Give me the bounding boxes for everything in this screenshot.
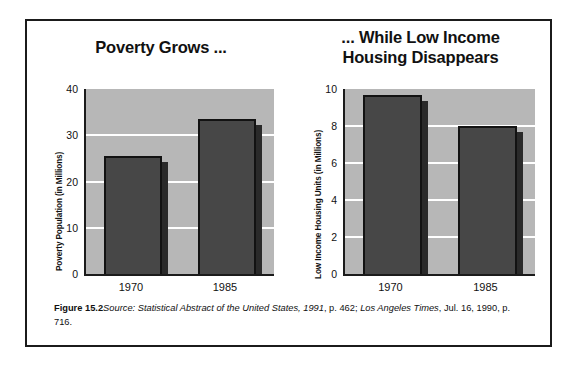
chart-housing-title-line-2: Housing Disappears (293, 47, 548, 67)
chart-poverty-y-axis-title: Poverty Population (in Millions) (55, 152, 64, 271)
bar-1970[interactable] (363, 95, 422, 274)
bar-1970[interactable] (104, 156, 162, 274)
caption-source-title-1: Statistical Abstract of the United State… (138, 303, 324, 313)
chart-poverty-title: Poverty Grows ... (33, 37, 289, 57)
y-tick-label: 10 (40, 223, 78, 233)
chart-housing: ... While Low Income Housing Disappears … (293, 21, 548, 289)
y-tick-label: 2 (299, 232, 337, 242)
caption-source-detail-1: , p. 462; (324, 303, 360, 313)
x-category-label: 1985 (178, 281, 272, 293)
caption-figure-number: Figure 15.2 (54, 303, 103, 313)
x-category-label: 1985 (438, 281, 533, 293)
chart-poverty: Poverty Grows ... Poverty Population (in… (33, 21, 289, 289)
charts-row: Poverty Grows ... Poverty Population (in… (27, 21, 550, 289)
x-category-label: 1970 (343, 281, 438, 293)
caption-source-title-2: Los Angeles Times (360, 303, 439, 313)
bar-1985[interactable] (458, 126, 517, 274)
caption-source-prefix: Source: (103, 303, 138, 313)
chart-poverty-plot-area (84, 89, 274, 276)
y-tick-label: 20 (40, 177, 78, 187)
bar-1985[interactable] (198, 119, 256, 274)
chart-housing-plot-inner (345, 89, 535, 274)
chart-poverty-plot-inner (86, 89, 274, 274)
y-tick-label: 0 (40, 269, 78, 279)
y-tick-label: 30 (40, 130, 78, 140)
chart-housing-title: ... While Low Income Housing Disappears (293, 27, 548, 67)
y-tick-label: 40 (40, 84, 78, 94)
y-tick-label: 6 (299, 158, 337, 168)
chart-housing-plot-area (343, 89, 535, 276)
x-category-label: 1970 (84, 281, 178, 293)
figure-caption: Figure 15.2Source: Statistical Abstract … (54, 301, 524, 329)
y-tick-label: 10 (299, 84, 337, 94)
figure-frame: Poverty Grows ... Poverty Population (in… (25, 19, 552, 347)
y-tick-label: 8 (299, 121, 337, 131)
y-tick-label: 4 (299, 195, 337, 205)
chart-housing-title-line-1: ... While Low Income (293, 27, 548, 47)
y-tick-label: 0 (299, 269, 337, 279)
